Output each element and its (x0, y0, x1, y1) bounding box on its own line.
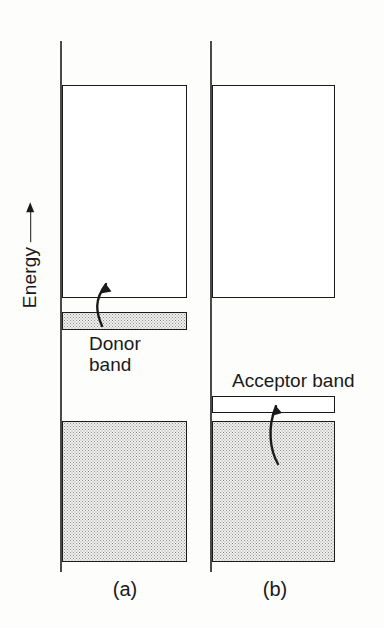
panel-a-donor: Donor band (60, 0, 190, 628)
panel-a-valence-band (62, 421, 187, 562)
panel-b-acceptor-band-label: Acceptor band (232, 370, 355, 391)
up-arrow-icon (25, 202, 35, 242)
panel-b-valence-band (212, 421, 335, 562)
energy-band-diagram-figure: Energy Donor band Acceptor band (a) (b) (0, 0, 384, 628)
panel-a-donor-band-label: Donor band (89, 333, 141, 376)
panel-b-caption: (b) (210, 578, 340, 601)
panel-b-acceptor: Acceptor band (210, 0, 340, 628)
panel-b-acceptor-band (212, 396, 335, 413)
energy-axis: Energy (2, 170, 58, 340)
panel-a-donor-band (62, 312, 187, 330)
panel-a-caption: (a) (60, 578, 190, 601)
energy-axis-label: Energy (19, 247, 41, 308)
panel-b-conduction-band (212, 85, 335, 298)
panel-a-conduction-band (62, 85, 187, 298)
